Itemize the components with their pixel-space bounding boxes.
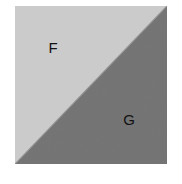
square-region-diagram: F G <box>0 0 182 184</box>
square-body <box>15 6 167 164</box>
region-label-g: G <box>123 111 135 128</box>
region-label-f: F <box>48 39 57 56</box>
noise-texture-overlay <box>15 6 167 164</box>
figure-root: F G <box>0 0 182 184</box>
